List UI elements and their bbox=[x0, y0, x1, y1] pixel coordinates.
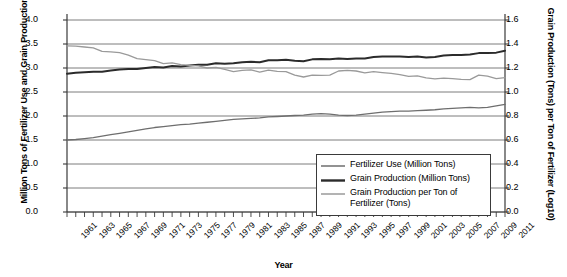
series-line-1 bbox=[67, 51, 505, 74]
legend-line-swatch bbox=[321, 165, 345, 167]
legend-label-grain-production: Grain Production (Million Tons) bbox=[350, 173, 470, 184]
chart-legend: Fertilizer Use (Million Tons) Grain Prod… bbox=[316, 154, 491, 216]
plot-area bbox=[0, 0, 567, 277]
legend-label-line1: Grain Production per Ton of bbox=[350, 187, 457, 197]
series-line-2 bbox=[67, 46, 505, 80]
legend-item-grain-per-ton: Grain Production per Ton ofFertilizer (T… bbox=[321, 187, 487, 211]
legend-line-swatch bbox=[321, 179, 345, 182]
legend-line-swatch bbox=[321, 193, 345, 195]
legend-item-fertilizer-use: Fertilizer Use (Million Tons) bbox=[321, 159, 487, 172]
legend-label-fertilizer-use: Fertilizer Use (Million Tons) bbox=[350, 159, 455, 170]
legend-label-grain-per-ton: Grain Production per Ton ofFertilizer (T… bbox=[350, 187, 487, 209]
data-series-layer bbox=[67, 46, 505, 140]
series-line-0 bbox=[67, 104, 505, 140]
chart-container: Million Tons of Fertilizer Use and Grain… bbox=[0, 0, 567, 277]
legend-item-grain-production: Grain Production (Million Tons) bbox=[321, 173, 487, 186]
legend-label-line2: Fertilizer (Tons) bbox=[350, 198, 410, 208]
